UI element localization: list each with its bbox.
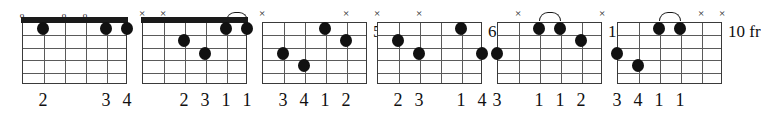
fingering-number-s2: 3 bbox=[275, 90, 291, 110]
finger-dot-s2-f2 bbox=[392, 34, 404, 47]
fingering-number-s4: 1 bbox=[552, 90, 568, 110]
fingering-number-s1: 3 bbox=[609, 90, 625, 110]
string-line-3 bbox=[305, 23, 306, 83]
finger-dot-s2-f3 bbox=[277, 47, 289, 60]
fret-line-3 bbox=[143, 60, 246, 61]
string-line-2 bbox=[399, 23, 400, 83]
fret-position-label: 10 fr bbox=[728, 23, 761, 40]
finger-dot-s4-f1 bbox=[319, 22, 331, 35]
finger-dot-s3-f3 bbox=[413, 47, 425, 60]
muted-string-icon-6: × bbox=[717, 8, 727, 19]
nut-bar bbox=[21, 17, 128, 23]
finger-dot-s1-f3 bbox=[611, 47, 623, 60]
fret-line-4 bbox=[263, 73, 366, 74]
string-markers-row: ×× bbox=[377, 7, 482, 21]
string-line-4 bbox=[86, 23, 87, 83]
fret-line-1 bbox=[23, 35, 126, 36]
fingering-number-s3: 1 bbox=[651, 90, 667, 110]
finger-dot-s6-f3 bbox=[476, 47, 488, 60]
finger-dot-s3-f1 bbox=[533, 22, 545, 35]
barre-arc-icon-3-4 bbox=[539, 12, 561, 21]
fingering-number-s5: 1 bbox=[453, 90, 469, 110]
fingering-number-s4: 3 bbox=[197, 90, 213, 110]
finger-dot-s2-f1 bbox=[37, 22, 49, 35]
finger-dot-s5-f2 bbox=[340, 34, 352, 47]
fingering-row: 3112 bbox=[497, 90, 602, 110]
finger-dot-s5-f1 bbox=[100, 22, 112, 35]
string-line-5 bbox=[702, 23, 703, 83]
fingering-number-s5: 2 bbox=[573, 90, 589, 110]
fingering-number-s5: 1 bbox=[218, 90, 234, 110]
string-markers-row: ×× bbox=[262, 7, 367, 21]
fingering-number-s3: 1 bbox=[531, 90, 547, 110]
muted-string-icon-1: × bbox=[257, 8, 267, 19]
fingering-row: 2314 bbox=[377, 90, 482, 110]
fret-line-4 bbox=[23, 73, 126, 74]
fretboard-grid bbox=[617, 22, 722, 84]
finger-dot-s3-f4 bbox=[298, 59, 310, 72]
string-line-3 bbox=[65, 23, 66, 83]
finger-dot-s4-f1 bbox=[674, 22, 686, 35]
fret-line-2 bbox=[618, 48, 721, 49]
fret-line-3 bbox=[263, 60, 366, 61]
fret-line-3 bbox=[23, 60, 126, 61]
string-line-2 bbox=[639, 23, 640, 83]
fingering-number-s3: 2 bbox=[176, 90, 192, 110]
muted-string-icon-3: × bbox=[414, 8, 424, 19]
fret-line-2 bbox=[143, 48, 246, 49]
fingering-row: 2311 bbox=[142, 90, 247, 110]
finger-dot-s4-f3 bbox=[199, 47, 211, 60]
muted-string-icon-5: × bbox=[341, 8, 351, 19]
finger-dot-s5-f2 bbox=[575, 34, 587, 47]
fret-line-4 bbox=[498, 73, 601, 74]
fretboard-grid bbox=[497, 22, 602, 84]
fingering-number-s5: 2 bbox=[338, 90, 354, 110]
barre-arc-icon-3-4 bbox=[659, 12, 681, 21]
fret-line-2 bbox=[23, 48, 126, 49]
finger-dot-s3-f1 bbox=[653, 22, 665, 35]
fret-line-3 bbox=[378, 60, 481, 61]
finger-dot-s2-f4 bbox=[632, 59, 644, 72]
fingering-number-s6: 4 bbox=[119, 90, 135, 110]
fingering-number-s2: 2 bbox=[390, 90, 406, 110]
muted-string-icon-1: × bbox=[372, 8, 382, 19]
fingering-number-s5: 3 bbox=[98, 90, 114, 110]
fingering-number-s3: 3 bbox=[411, 90, 427, 110]
fingering-number-s3: 4 bbox=[296, 90, 312, 110]
fret-line-1 bbox=[143, 35, 246, 36]
fingering-row: 3411 bbox=[617, 90, 722, 110]
fingering-number-s6: 4 bbox=[474, 90, 490, 110]
fingering-number-s1: 3 bbox=[489, 90, 505, 110]
fingering-row: 3412 bbox=[262, 90, 367, 110]
finger-dot-s5-f1 bbox=[455, 22, 467, 35]
fret-line-4 bbox=[378, 73, 481, 74]
fret-line-1 bbox=[618, 35, 721, 36]
muted-string-icon-2: × bbox=[513, 8, 523, 19]
finger-dot-s6-f1 bbox=[241, 22, 253, 35]
fret-line-2 bbox=[378, 48, 481, 49]
nut-bar bbox=[141, 17, 248, 23]
fingering-number-s6: 1 bbox=[239, 90, 255, 110]
finger-dot-s4-f1 bbox=[554, 22, 566, 35]
fret-line-2 bbox=[498, 48, 601, 49]
string-line-2 bbox=[164, 23, 165, 83]
fingering-number-s4: 1 bbox=[672, 90, 688, 110]
string-line-5 bbox=[347, 23, 348, 83]
muted-string-icon-6: × bbox=[597, 8, 607, 19]
finger-dot-s3-f2 bbox=[178, 34, 190, 47]
string-markers-row: ×× bbox=[617, 7, 722, 21]
string-line-2 bbox=[519, 23, 520, 83]
string-markers-row: ×× bbox=[497, 7, 602, 21]
muted-string-icon-5: × bbox=[696, 8, 706, 19]
finger-dot-s1-f3 bbox=[491, 47, 503, 60]
fingering-number-s4: 1 bbox=[317, 90, 333, 110]
string-line-3 bbox=[185, 23, 186, 83]
fingering-number-s2: 2 bbox=[35, 90, 51, 110]
fingering-row: 234 bbox=[22, 90, 127, 110]
fret-line-4 bbox=[618, 73, 721, 74]
string-line-4 bbox=[441, 23, 442, 83]
finger-dot-s5-f1 bbox=[220, 22, 232, 35]
string-line-5 bbox=[582, 23, 583, 83]
fret-line-3 bbox=[498, 60, 601, 61]
